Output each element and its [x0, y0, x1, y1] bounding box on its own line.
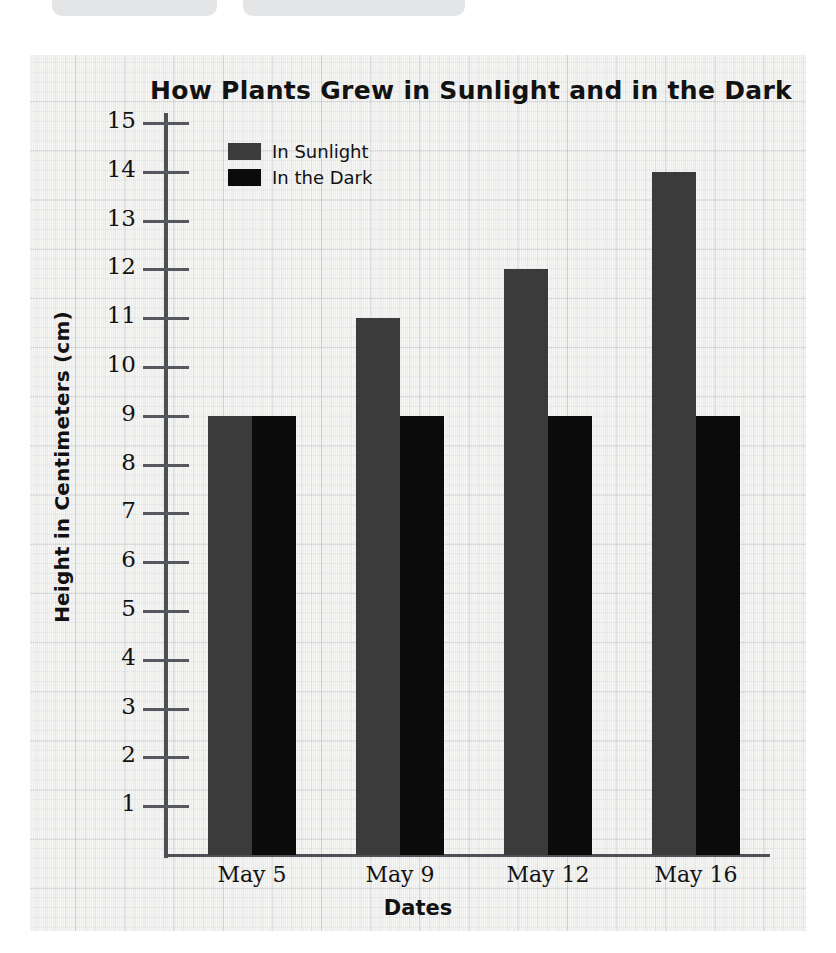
legend-item-in-the-dark: In the Dark: [228, 166, 372, 189]
x-axis-title: Dates: [0, 896, 836, 920]
bar-may-16-in-the-dark: [696, 416, 740, 855]
legend-item-in-sunlight: In Sunlight: [228, 140, 372, 163]
chart-legend: In SunlightIn the Dark: [228, 140, 372, 192]
bar-may-9-in-sunlight: [356, 318, 400, 855]
x-tick-label-1: May 9: [326, 862, 474, 887]
legend-swatch-icon: [228, 169, 261, 186]
bar-may-16-in-sunlight: [652, 172, 696, 855]
x-tick-label-2: May 12: [474, 862, 622, 887]
legend-swatch-icon: [228, 143, 261, 160]
x-tick-label-3: May 16: [622, 862, 770, 887]
bar-may-5-in-sunlight: [208, 416, 252, 855]
bar-plot-area: [0, 0, 836, 855]
legend-label: In Sunlight: [272, 141, 369, 162]
bar-may-9-in-the-dark: [400, 416, 444, 855]
legend-label: In the Dark: [272, 167, 372, 188]
x-tick-label-0: May 5: [178, 862, 326, 887]
bar-may-12-in-the-dark: [548, 416, 592, 855]
bar-may-5-in-the-dark: [252, 416, 296, 855]
bar-may-12-in-sunlight: [504, 269, 548, 855]
